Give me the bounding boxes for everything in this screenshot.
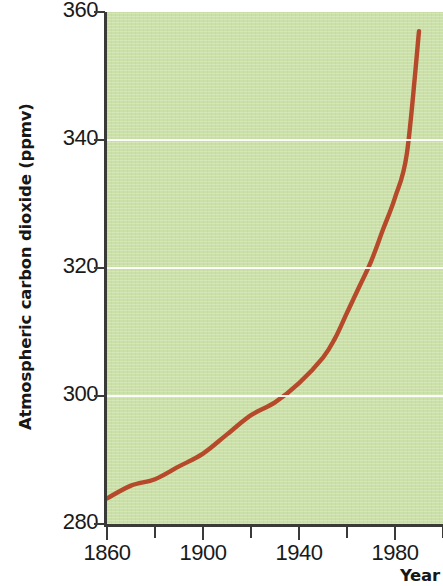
x-tick-mark-1860 xyxy=(106,527,108,540)
x-tick-mark-1980 xyxy=(394,527,396,540)
co2-curve-path xyxy=(107,31,419,498)
y-tick-mark-320 xyxy=(94,267,105,269)
y-tick-mark-300 xyxy=(94,395,105,397)
y-tick-label-360: 360 xyxy=(46,0,98,23)
y-tick-mark-360 xyxy=(94,11,105,13)
gridline-300 xyxy=(107,395,443,397)
plot-area xyxy=(107,12,443,524)
x-tick-mark-1900 xyxy=(202,527,204,540)
y-axis-line xyxy=(104,12,107,526)
x-tick-label-1900: 1900 xyxy=(158,540,248,566)
chart-figure: Atmospheric carbon dioxide (ppmv) 280300… xyxy=(0,0,443,586)
x-tick-mark-1920 xyxy=(250,527,252,538)
x-tick-mark-1940 xyxy=(298,527,300,540)
y-tick-label-280: 280 xyxy=(46,509,98,535)
x-tick-mark-1880 xyxy=(154,527,156,538)
y-tick-label-320: 320 xyxy=(46,253,98,279)
x-axis-title: Year xyxy=(400,566,440,585)
x-tick-mark-1960 xyxy=(346,527,348,538)
y-tick-mark-340 xyxy=(94,139,105,141)
gridline-320 xyxy=(107,267,443,269)
y-tick-mark-280 xyxy=(94,523,105,525)
x-tick-label-1860: 1860 xyxy=(62,540,152,566)
gridline-340 xyxy=(107,139,443,141)
x-tick-label-1940: 1940 xyxy=(254,540,344,566)
y-tick-label-300: 300 xyxy=(46,381,98,407)
y-axis-tick-labels: 280300320340360 xyxy=(36,0,98,586)
y-axis-title: Atmospheric carbon dioxide (ppmv) xyxy=(16,103,35,430)
y-tick-label-340: 340 xyxy=(46,125,98,151)
x-tick-label-1980: 1980 xyxy=(350,540,440,566)
